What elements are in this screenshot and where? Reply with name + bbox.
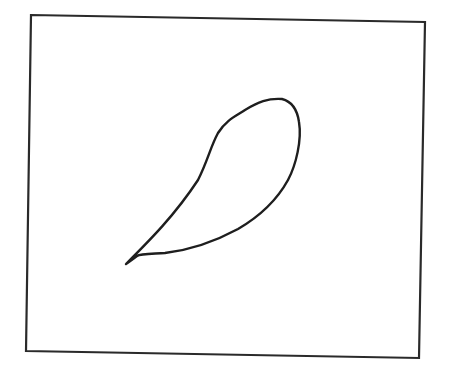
teardrop-curve [126,99,300,264]
rectangular-frame [26,15,425,358]
diagram-canvas [0,0,455,380]
